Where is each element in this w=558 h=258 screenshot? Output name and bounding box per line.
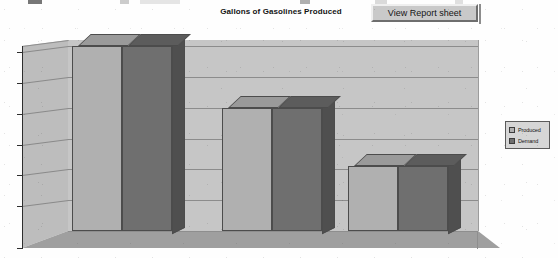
bar-front-face <box>272 108 322 231</box>
chart-title: Gallons of Gasolines Produced <box>196 7 366 16</box>
bar-produced-gas-3 <box>348 154 398 231</box>
y-tick <box>17 175 23 176</box>
bar-side-face <box>322 98 335 234</box>
legend-swatch-icon <box>509 138 515 144</box>
legend-label: Demand <box>518 138 538 144</box>
y-tick <box>17 206 23 207</box>
wall-edge-right <box>477 231 478 249</box>
bar-produced-gas-2 <box>222 96 272 231</box>
bar-demand-gas-3 <box>398 154 448 231</box>
y-axis <box>22 46 23 248</box>
y-tick <box>17 83 23 84</box>
chart-legend: Produced Demand <box>505 121 550 149</box>
bar-front-face <box>222 108 272 231</box>
bar-front-face <box>398 166 448 231</box>
scan-artifact <box>140 0 180 4</box>
y-tick <box>17 114 23 115</box>
bar-demand-gas-1 <box>122 34 172 231</box>
legend-label: Produced <box>518 127 541 133</box>
scan-artifact <box>120 0 129 4</box>
legend-item-produced: Produced <box>509 124 547 135</box>
bar-side-face <box>172 37 185 234</box>
bar-front-face <box>122 46 172 231</box>
bar-side-face <box>448 157 461 234</box>
bar-produced-gas-1 <box>72 34 122 231</box>
bar-front-face <box>72 46 122 231</box>
y-tick <box>17 145 23 146</box>
scan-artifact <box>28 0 42 4</box>
wall-edge-bottom <box>68 231 478 232</box>
scan-artifact <box>300 0 310 4</box>
button-shadow <box>479 4 481 24</box>
bar-front-face <box>348 166 398 231</box>
scanned-page: Gallons of Gasolines Produced View Repor… <box>0 0 558 258</box>
y-tick <box>17 52 23 53</box>
legend-item-demand: Demand <box>509 135 547 146</box>
y-tick <box>17 248 23 249</box>
chart-plot-area: 050010001500200025003000 Gas 1Gas 2Gas 3 <box>0 26 500 238</box>
bar-demand-gas-2 <box>272 96 322 231</box>
view-report-sheet-button[interactable]: View Report sheet <box>371 4 478 22</box>
legend-swatch-icon <box>509 127 515 133</box>
